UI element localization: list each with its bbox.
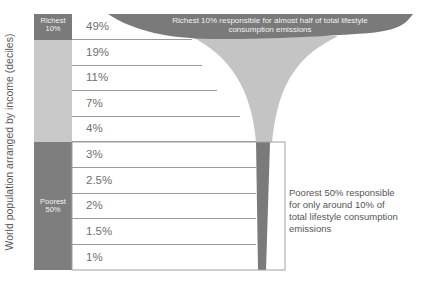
value-decile-3: 2% (86, 193, 103, 218)
value-decile-5: 3% (86, 142, 103, 167)
annotation-richest: Richest 10% responsible for almost half … (150, 16, 390, 34)
emissions-funnel-chart: World population arranged by income (dec… (0, 0, 427, 284)
value-decile-6: 4% (86, 116, 103, 141)
value-decile-9: 19% (86, 40, 109, 65)
value-decile-1: 1% (86, 245, 103, 270)
annotation-poorest: Poorest 50% responsible for only around … (289, 187, 399, 235)
value-decile-4: 2.5% (86, 168, 112, 193)
value-decile-8: 11% (86, 65, 108, 90)
value-decile-7: 7% (86, 91, 103, 116)
value-decile-10: 49% (86, 14, 109, 39)
value-decile-2: 1.5% (86, 219, 112, 244)
funnel-stem (256, 142, 270, 270)
